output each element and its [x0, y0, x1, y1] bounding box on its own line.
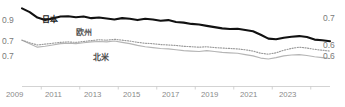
series-annotation-north-america: 北米	[93, 53, 109, 62]
series-annotation-europe: 欧州	[76, 28, 92, 37]
y-axis-left-label-0: 0.9	[2, 16, 14, 25]
y-axis-right-label-0: 0.7	[323, 14, 335, 23]
x-axis-tick-label-2009: 2009	[6, 91, 23, 99]
series-line-north-america	[22, 40, 330, 59]
y-axis-right-label-1: 0.6	[323, 41, 335, 50]
x-axis-tick-label-2021: 2021	[240, 91, 257, 99]
x-axis-tick-label-2015: 2015	[123, 91, 140, 99]
chart-container: 0.9 0.7 0.7 0.7 0.6 0.6 2009 2011 2013 2…	[0, 0, 345, 107]
series-line-europe	[22, 39, 330, 54]
x-axis-tick-label-2011: 2011	[45, 91, 62, 99]
y-axis-left-label-2: 0.7	[2, 52, 14, 61]
series-line-japan	[22, 8, 330, 41]
x-axis-tick-label-2017: 2017	[162, 91, 179, 99]
y-axis-left-label-1: 0.7	[2, 37, 14, 46]
x-axis-tick-label-2023: 2023	[279, 91, 296, 99]
y-axis-right-label-2: 0.6	[323, 52, 335, 61]
x-axis-tick-label-2013: 2013	[84, 91, 101, 99]
series-annotation-japan: 日本	[42, 15, 58, 24]
x-axis-tick-label-2019: 2019	[201, 91, 218, 99]
